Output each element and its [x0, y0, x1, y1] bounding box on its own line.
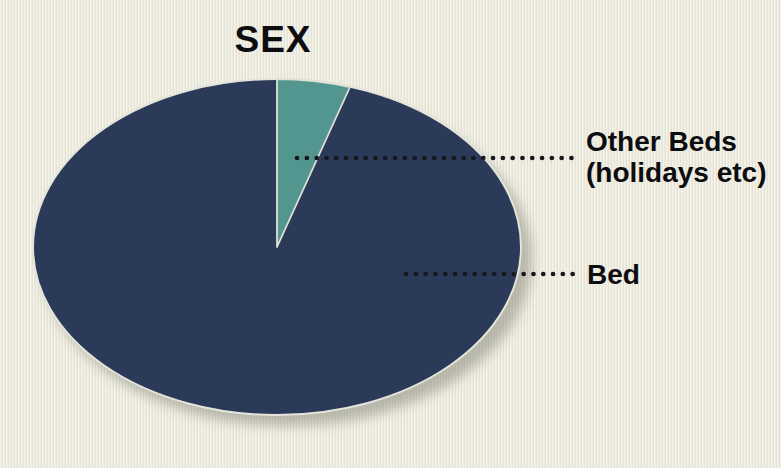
callout-label-other-beds: Other Beds (holidays etc)	[586, 126, 766, 188]
callout-label-other-beds-line2: (holidays etc)	[586, 157, 766, 188]
callout-label-bed: Bed	[587, 259, 640, 290]
callout-label-other-beds-line1: Other Beds	[586, 126, 766, 157]
pie-chart-figure: SEX Other Beds (holidays etc) Bed	[0, 0, 781, 468]
pie-chart-canvas	[0, 0, 781, 468]
